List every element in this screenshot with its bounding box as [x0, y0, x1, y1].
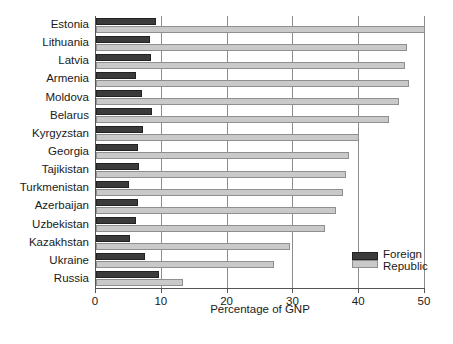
bar-republic [96, 26, 425, 33]
bar-foreign [96, 144, 138, 151]
category-label: Kazakhstan [29, 236, 89, 248]
bar-foreign [96, 108, 152, 115]
bar-row: Azerbaijan [95, 197, 424, 215]
bar-row: Tajikistan [95, 161, 424, 179]
legend-label-foreign: Foreign [383, 248, 428, 260]
bar-row: Uzbekistan [95, 215, 424, 233]
x-axis-label: Percentage of GNP [95, 303, 425, 315]
legend-label-republic: Republic [383, 260, 428, 272]
bar-republic [96, 189, 343, 196]
bar-republic [96, 116, 389, 123]
bar-republic [96, 261, 274, 268]
bar-republic [96, 152, 349, 159]
bar-row: Estonia [95, 16, 424, 34]
bar-republic [96, 134, 359, 141]
bar-republic [96, 171, 346, 178]
bar-foreign [96, 54, 151, 61]
bar-row: Moldova [95, 89, 424, 107]
category-label: Lithuania [42, 36, 89, 48]
bar-republic [96, 207, 336, 214]
bar-foreign [96, 181, 129, 188]
tick-50 [424, 288, 425, 293]
bar-row: Turkmenistan [95, 179, 424, 197]
bar-republic [96, 225, 325, 232]
bar-foreign [96, 217, 136, 224]
bar-republic [96, 243, 290, 250]
legend-swatch-republic [352, 260, 378, 268]
bar-row: Russia [95, 270, 424, 288]
bar-row: Kyrgyzstan [95, 125, 424, 143]
legend-swatches [352, 252, 378, 268]
category-label: Kyrgyzstan [32, 127, 89, 139]
legend-swatch-foreign [352, 252, 378, 260]
bar-foreign [96, 90, 142, 97]
bar-row: Latvia [95, 52, 424, 70]
bar-foreign [96, 72, 136, 79]
x-axis-line [95, 288, 425, 289]
bar-republic [96, 279, 183, 286]
bar-row: Armenia [95, 70, 424, 88]
bar-row: Georgia [95, 143, 424, 161]
tick-30 [292, 288, 293, 293]
category-label: Tajikistan [42, 163, 89, 175]
bar-foreign [96, 253, 145, 260]
bar-row: Belarus [95, 107, 424, 125]
tick-0 [95, 288, 96, 293]
bar-chart: 01020304050 EstoniaLithuaniaLatviaArmeni… [0, 0, 453, 344]
category-label: Latvia [58, 54, 89, 66]
category-label: Ukraine [49, 254, 89, 266]
category-label: Belarus [50, 109, 89, 121]
bar-republic [96, 80, 409, 87]
legend: Foreign Republic [352, 248, 428, 272]
category-label: Armenia [46, 72, 89, 84]
category-label: Uzbekistan [32, 218, 89, 230]
tick-20 [227, 288, 228, 293]
category-label: Estonia [51, 18, 89, 30]
bar-republic [96, 98, 399, 105]
tick-40 [358, 288, 359, 293]
bar-foreign [96, 271, 159, 278]
bar-foreign [96, 18, 156, 25]
bar-foreign [96, 36, 150, 43]
category-label: Turkmenistan [20, 181, 89, 193]
category-label: Russia [54, 272, 89, 284]
bar-foreign [96, 235, 130, 242]
category-label: Georgia [48, 145, 89, 157]
bar-republic [96, 44, 407, 51]
tick-10 [161, 288, 162, 293]
bar-foreign [96, 199, 138, 206]
bar-foreign [96, 163, 139, 170]
category-label: Moldova [46, 91, 89, 103]
bar-republic [96, 62, 405, 69]
bar-foreign [96, 126, 143, 133]
category-label: Azerbaijan [35, 199, 89, 211]
legend-labels: Foreign Republic [383, 248, 428, 272]
bar-row: Lithuania [95, 34, 424, 52]
